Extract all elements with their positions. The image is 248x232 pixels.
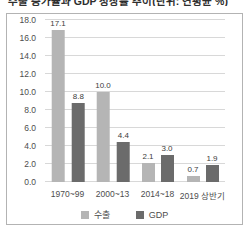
bar-wrap: 4.4: [117, 20, 130, 182]
bar-수출: [142, 163, 155, 182]
bar-value-label: 1.9: [206, 155, 217, 163]
bar-value-label: 2.1: [142, 153, 153, 161]
bar-value-label: 3.0: [161, 145, 172, 153]
legend: 수출GDP: [7, 208, 242, 221]
x-category-label: 2014~18: [141, 189, 174, 199]
bar-value-label: 8.8: [73, 93, 84, 101]
bar-pair: 17.18.8: [50, 20, 85, 182]
bar-GDP: [72, 103, 85, 182]
bar-wrap: 3.0: [161, 20, 174, 182]
legend-label: 수출: [94, 208, 110, 221]
x-category-label: 1970~99: [51, 189, 84, 199]
y-tick-label: 12.0: [19, 70, 36, 79]
bar-wrap: 1.9: [206, 20, 219, 182]
y-tick-label: 0.0: [24, 178, 36, 187]
bar-GDP: [206, 165, 219, 182]
legend-swatch: [81, 211, 89, 219]
chart-box: 0.02.04.06.08.010.012.014.016.018.0 17.1…: [6, 13, 243, 225]
x-category-label: 2019 상반기: [180, 189, 225, 201]
y-tick-label: 18.0: [19, 16, 36, 25]
bar-value-label: 4.4: [118, 132, 129, 140]
y-tick-label: 10.0: [19, 88, 36, 97]
bar-group: 2.13.02014~18: [135, 20, 180, 182]
legend-label: GDP: [149, 210, 169, 220]
y-tick-label: 2.0: [24, 160, 36, 169]
bar-group: 10.04.42000~13: [90, 20, 135, 182]
figure-title-clipped: 수출 증가율과 GDP 성장률 추이(단위: 연평균 %): [0, 0, 248, 6]
plot-area: 17.18.81970~9910.04.42000~132.13.02014~1…: [45, 20, 225, 182]
bar-수출: [96, 92, 109, 182]
bar-value-label: 10.0: [95, 82, 111, 90]
bar-수출: [51, 30, 64, 182]
y-tick-label: 8.0: [24, 106, 36, 115]
chart-figure: 수출 증가율과 GDP 성장률 추이(단위: 연평균 %) 0.02.04.06…: [0, 0, 248, 232]
y-tick-label: 14.0: [19, 52, 36, 61]
bar-GDP: [161, 155, 174, 182]
bar-value-label: 17.1: [50, 20, 66, 28]
legend-item: GDP: [136, 208, 169, 221]
bar-group: 0.71.92019 상반기: [180, 20, 225, 182]
bar-wrap: 10.0: [95, 20, 111, 182]
figure-title-text: 수출 증가율과 GDP 성장률 추이(단위: 연평균 %): [0, 0, 248, 6]
y-axis-labels: 0.02.04.06.08.010.012.014.016.018.0: [7, 20, 41, 182]
bar-wrap: 8.8: [72, 20, 85, 182]
y-tick-label: 4.0: [24, 142, 36, 151]
y-tick-label: 6.0: [24, 124, 36, 133]
bar-GDP: [117, 142, 130, 182]
bar-wrap: 0.7: [187, 20, 200, 182]
bar-value-label: 0.7: [187, 166, 198, 174]
legend-swatch: [136, 211, 144, 219]
x-category-label: 2000~13: [96, 189, 129, 199]
bar-pair: 0.71.9: [187, 20, 219, 182]
bar-wrap: 2.1: [142, 20, 155, 182]
bar-groups: 17.18.81970~9910.04.42000~132.13.02014~1…: [45, 20, 225, 182]
legend-item: 수출: [81, 208, 110, 221]
bar-pair: 10.04.4: [95, 20, 130, 182]
bar-group: 17.18.81970~99: [45, 20, 90, 182]
y-tick-label: 16.0: [19, 34, 36, 43]
bar-pair: 2.13.0: [142, 20, 174, 182]
bar-wrap: 17.1: [50, 20, 66, 182]
bar-수출: [187, 176, 200, 182]
